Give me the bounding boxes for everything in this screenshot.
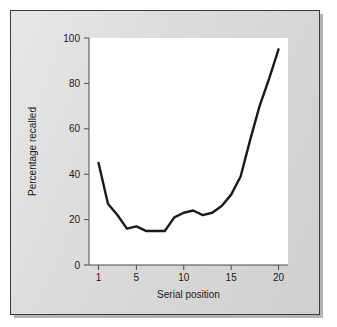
y-axis-tick-label: 0 xyxy=(74,260,80,271)
figure-frame-shadow-bottom xyxy=(14,315,323,318)
x-axis-tick-label: 10 xyxy=(178,272,190,283)
y-axis-ticks: 020406080100 xyxy=(63,33,89,271)
screenshot-root: 020406080100 15101520 Serial position Pe… xyxy=(0,0,337,327)
y-axis-tick-label: 80 xyxy=(69,78,81,89)
x-axis-title: Serial position xyxy=(157,289,220,300)
y-axis-tick-label: 60 xyxy=(69,123,81,134)
x-axis-ticks: 15101520 xyxy=(96,265,285,283)
y-axis-tick-label: 100 xyxy=(63,33,80,44)
serial-position-curve-chart: 020406080100 15101520 Serial position Pe… xyxy=(10,10,320,315)
y-axis-tick-label: 20 xyxy=(69,214,81,225)
plot-panel xyxy=(89,38,288,265)
x-axis-tick-label: 15 xyxy=(226,272,238,283)
x-axis-tick-label: 1 xyxy=(96,272,102,283)
y-axis-title: Percentage recalled xyxy=(27,107,38,196)
figure-frame-shadow-right xyxy=(320,14,323,315)
x-axis-tick-label: 5 xyxy=(134,272,140,283)
y-axis-tick-label: 40 xyxy=(69,169,81,180)
x-axis-tick-label: 20 xyxy=(273,272,285,283)
